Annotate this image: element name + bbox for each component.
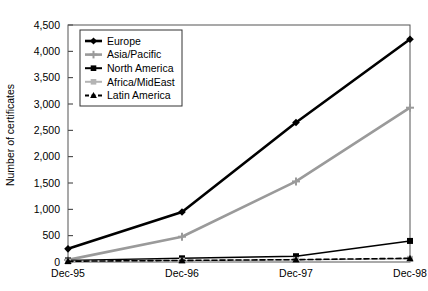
legend-label: Africa/MidEast [107,76,175,88]
y-tick-mark-group [68,25,73,262]
x-tick-label: Dec-96 [165,267,199,279]
series-line [68,108,410,260]
legend-swatch-marker [91,65,97,71]
x-tick-label: Dec-98 [393,267,427,279]
legend-swatch-marker [91,79,97,85]
y-tick-label-group: 05001,0001,5002,0002,5003,0003,5004,0004… [34,19,60,268]
data-point [407,238,413,244]
y-tick-label: 4,000 [34,45,60,57]
y-tick-label: 1,000 [34,203,60,215]
y-tick-label: 2,000 [34,150,60,162]
legend-label: North America [107,62,174,74]
legend: EuropeAsia/PacificNorth AmericaAfrica/Mi… [80,30,182,106]
chart-svg: 05001,0001,5002,0002,5003,0003,5004,0004… [0,0,428,291]
y-tick-label: 1,500 [34,177,60,189]
y-tick-label: 2,500 [34,124,60,136]
legend-label: Asia/Pacific [107,48,161,60]
y-tick-label: 4,500 [34,19,60,31]
x-tick-label-group: Dec-95Dec-96Dec-97Dec-98 [51,267,427,279]
series-asia-pacific [64,104,414,264]
y-tick-label: 500 [42,229,60,241]
y-tick-label: 0 [54,256,60,268]
x-tick-label: Dec-97 [279,267,313,279]
chart-container: Number of certificates 05001,0001,5002,0… [0,0,428,291]
data-point [64,245,72,253]
legend-label: Latin America [107,89,171,101]
legend-label: Europe [107,35,141,47]
y-tick-label: 3,000 [34,98,60,110]
x-tick-label: Dec-95 [51,267,85,279]
y-tick-label: 3,500 [34,71,60,83]
